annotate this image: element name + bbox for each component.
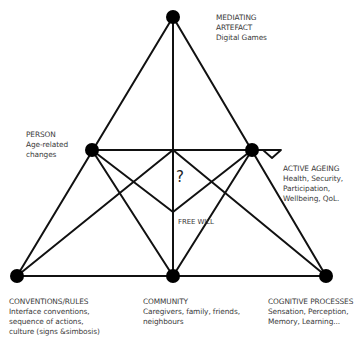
label-line: sequence of actions, [9,317,100,327]
label-title: MEDIATING [216,13,267,23]
node-person [85,143,99,157]
label-mediating-artefact: MEDIATING ARTEFACT Digital Games [216,13,267,43]
arrowhead-icon [263,150,281,158]
edge-activeageing-community [173,150,252,276]
label-title: PERSON [26,130,68,140]
label-title: COGNITIVE PROCESSES [268,297,353,307]
edge-center-conventions [17,150,173,276]
label-person: PERSON Age-related changes [26,130,68,160]
label-conventions-rules: CONVENTIONS/RULES Interface conventions,… [9,297,100,337]
label-title: ACTIVE AGEING [283,164,343,174]
node-community [166,269,180,283]
label-community: COMMUNITY Caregivers, family, friends, n… [143,297,240,327]
label-line: Health, Security, [283,174,343,184]
label-title: COMMUNITY [143,297,240,307]
free-will-label: FREE WILL [178,218,214,226]
edge-person-community [92,150,173,276]
label-line: culture (signs &simbosis) [9,327,100,337]
label-active-ageing: ACTIVE AGEING Health, Security, Particip… [283,164,343,204]
label-line: Sensation, Perception, [268,307,353,317]
label-line: ARTEFACT [216,23,267,33]
label-line: Interface conventions, [9,307,100,317]
node-cognitive [319,269,333,283]
label-line: Participation, [283,184,343,194]
label-title: CONVENTIONS/RULES [9,297,100,307]
label-line: neighbours [143,317,240,327]
question-mark: ? [176,168,184,186]
label-line: Memory, Learning... [268,317,353,327]
node-conventions [10,269,24,283]
label-line: Wellbeing, QoL. [283,194,343,204]
label-line: Caregivers, family, friends, [143,307,240,317]
node-top [166,10,180,24]
label-line: Age-related [26,140,68,150]
label-line: changes [26,150,68,160]
label-line: Digital Games [216,33,267,43]
label-cognitive-processes: COGNITIVE PROCESSES Sensation, Perceptio… [268,297,353,327]
node-active-ageing [245,143,259,157]
